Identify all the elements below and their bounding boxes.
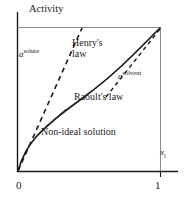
a-solute-superscript: solute: [24, 47, 40, 54]
a-solvent-superscript: solvent: [123, 69, 142, 76]
annotation-a-solvent: asolvent: [118, 70, 141, 81]
annotation-henrys-law: Henry'slaw: [72, 38, 103, 59]
henrys-law-line2: law: [72, 49, 103, 60]
annotation-nonideal-solution: Non-ideal solution: [41, 127, 116, 138]
raoults-law-dashed-line: [106, 29, 160, 97]
x-axis-title: xi: [160, 148, 166, 160]
x-tick-label-one: 1: [155, 180, 161, 192]
annotation-raoults-law: Raoult's law: [74, 92, 123, 103]
x-axis-subscript: i: [164, 152, 166, 159]
plot-canvas: [0, 0, 186, 206]
henrys-law-line1: Henry's: [72, 37, 103, 48]
y-axis-title: Activity: [29, 3, 63, 14]
activity-vs-mole-fraction-figure: Activity asolute Henry'slaw asolvent Rao…: [0, 0, 186, 206]
x-tick-label-zero: 0: [16, 180, 22, 192]
nonideal-leader-line: [49, 109, 66, 124]
annotation-a-solute: asolute: [19, 48, 39, 59]
